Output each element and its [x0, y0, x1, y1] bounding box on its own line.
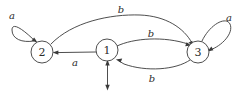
state-node-2[interactable]: 2	[31, 41, 53, 63]
start-arrow-state-1	[105, 60, 109, 91]
transition-3-to-1-lower: b	[116, 59, 190, 84]
start-arrow-head-down	[105, 85, 109, 91]
edge-label-1-2: a	[72, 57, 78, 68]
state-label-1: 1	[104, 44, 111, 57]
state-label-2: 2	[39, 46, 46, 59]
edge-path-1-2	[56, 52, 96, 53]
transition-1-to-3-upper: b	[117, 28, 191, 47]
edge-label-2-2: a	[9, 10, 15, 21]
edge-path-1-3-upper	[117, 39, 188, 46]
arrow-head-1-2	[53, 50, 59, 54]
state-label-3: 3	[195, 46, 202, 59]
edge-label-3-3: a	[226, 12, 232, 23]
automaton-canvas: a a a b b b	[0, 0, 244, 91]
edge-label-3-1-lower: b	[149, 73, 155, 84]
edge-path-3-1-lower	[119, 60, 190, 69]
automaton-diagram: a a a b b b	[0, 0, 244, 91]
edge-label-2-3-top: b	[118, 4, 124, 15]
state-node-3[interactable]: 3	[187, 41, 209, 63]
edge-label-1-3-upper: b	[148, 28, 154, 39]
transition-2-to-2: a	[9, 10, 38, 43]
state-node-1[interactable]: 1	[96, 39, 118, 61]
transition-1-to-2: a	[53, 50, 96, 67]
